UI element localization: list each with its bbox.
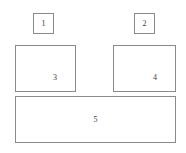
layout-region-3[interactable]: 3	[15, 45, 76, 92]
layout-region-1-label: 1	[34, 20, 53, 28]
layout-region-4-label: 4	[153, 74, 157, 82]
layout-region-5[interactable]: 5	[15, 96, 176, 143]
layout-region-3-label: 3	[53, 74, 57, 82]
layout-region-2-label: 2	[135, 20, 154, 28]
layout-region-2[interactable]: 2	[134, 13, 155, 34]
layout-region-1[interactable]: 1	[33, 13, 54, 34]
wireframe-diagram-canvas: 1 2 3 4 5	[0, 0, 186, 153]
layout-region-4[interactable]: 4	[113, 45, 176, 92]
layout-region-5-label: 5	[16, 116, 175, 124]
